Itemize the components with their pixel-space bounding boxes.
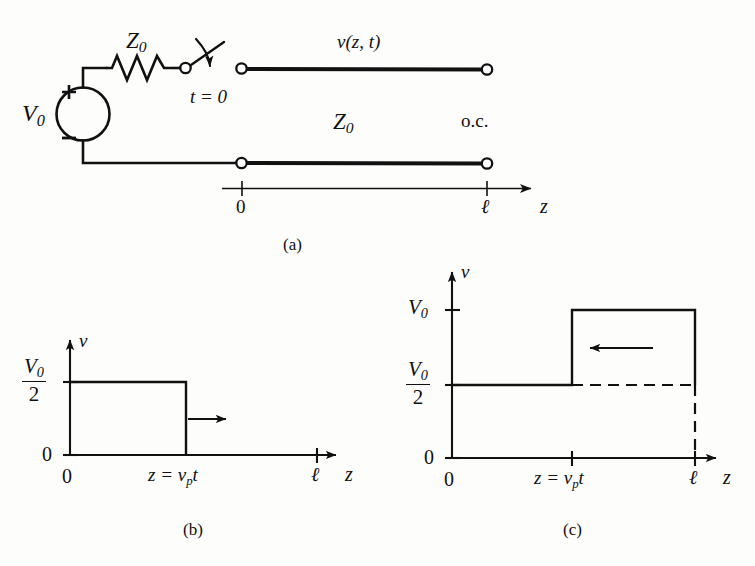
series-impedance-subscript: 0 — [139, 38, 147, 55]
voltage-source-symbol — [57, 88, 110, 141]
wire-source-top — [83, 68, 106, 88]
panel-c-ytick-label-half: V0 2 — [406, 358, 430, 408]
panel-c-ytick-label-zero: 0 — [424, 447, 434, 467]
line-impedance-subscript: 0 — [346, 119, 354, 136]
transmission-line-top-conductor — [247, 69, 481, 70]
panel-a-axis-variable: z — [540, 196, 548, 216]
panel-b-waveform — [70, 382, 186, 455]
figure-vector-layer — [0, 0, 755, 566]
panel-c-caption: (c) — [563, 521, 582, 538]
panel-a-circuit — [57, 39, 532, 196]
line-voltage-label: v(z, t) — [337, 32, 380, 51]
open-circuit-top-node — [482, 64, 492, 74]
open-circuit-label: o.c. — [461, 111, 488, 130]
transmission-line-bottom-conductor — [247, 163, 481, 164]
panel-b-ytick-label-half: V0 2 — [22, 355, 46, 405]
line-input-top-node — [236, 63, 246, 73]
switch-time-label: t = 0 — [190, 87, 227, 106]
panel-c-x-axis-label: z — [723, 467, 731, 487]
panel-c-xtick-label-length: ℓ — [689, 467, 697, 487]
panel-c-ytick-half-numerator: V0 — [406, 358, 430, 385]
wire-source-bottom — [83, 141, 236, 164]
panel-a-z-axis — [222, 181, 531, 196]
panel-a-tick-label-length: ℓ — [481, 196, 489, 216]
panel-a-tick-label-origin: 0 — [236, 197, 246, 216]
line-input-bottom-node — [236, 158, 246, 168]
panel-b-x-axis-label: z — [345, 464, 353, 484]
switch-left-node — [180, 63, 190, 73]
line-impedance-label: Z0 — [333, 110, 354, 136]
panel-c-xtick-label-front: z = vpt — [534, 468, 584, 491]
panel-a-caption: (a) — [283, 236, 302, 253]
panel-c-waveform — [452, 310, 695, 385]
panel-b-ytick-half-numerator: V0 — [22, 355, 46, 382]
source-label-subscript: 0 — [37, 111, 45, 130]
panel-b-plot — [63, 340, 336, 463]
figure-root: V0 Z0 t = 0 v(z, t) Z0 o.c. 0 ℓ z (a) v … — [0, 0, 755, 566]
panel-b-ytick-half-denominator: 2 — [22, 382, 46, 405]
panel-b-xtick-label-front: z = vpt — [148, 465, 198, 488]
series-impedance-label: Z0 — [126, 29, 147, 55]
panel-c-y-axis-label: v — [461, 262, 469, 281]
panel-b-xtick-label-origin: 0 — [62, 466, 72, 486]
resistor-symbol — [106, 56, 171, 80]
panel-b-y-axis-label: v — [79, 331, 87, 350]
panel-c-ytick-half-denominator: 2 — [406, 385, 430, 408]
panel-b-xtick-label-length: ℓ — [311, 464, 319, 484]
panel-c-xtick-label-origin: 0 — [444, 469, 454, 489]
panel-b-ytick-label-zero: 0 — [42, 444, 52, 464]
source-label: V0 — [22, 101, 45, 129]
panel-b-caption: (b) — [183, 521, 203, 538]
panel-c-plot — [445, 272, 716, 466]
panel-c-ytick-label-full: V0 — [408, 297, 428, 320]
panel-c-ytick-full-subscript: 0 — [421, 305, 428, 321]
open-circuit-bottom-node — [482, 158, 492, 168]
